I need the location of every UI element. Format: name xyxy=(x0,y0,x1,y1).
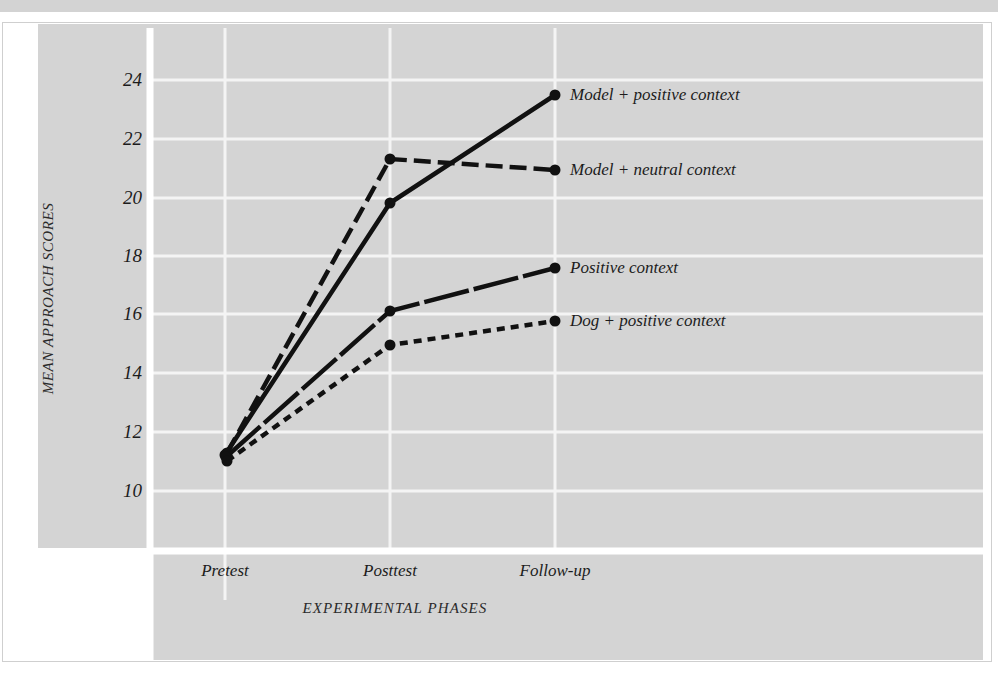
figure-root: MEAN APPROACH SCORES 24 22 20 18 16 14 1… xyxy=(0,0,998,689)
y-tick-label-18: 18 xyxy=(96,245,142,267)
data-point xyxy=(550,263,561,274)
y-tick-label-12: 12 xyxy=(96,421,142,443)
data-point xyxy=(385,154,396,165)
data-point xyxy=(550,316,561,327)
legend-label-dog-positive-context: Dog + positive context xyxy=(570,311,725,331)
legend-label-model-neutral-context: Model + neutral context xyxy=(570,160,736,180)
legend-label-model-positive-context: Model + positive context xyxy=(570,85,740,105)
legend-label-positive-context: Positive context xyxy=(570,258,678,278)
y-axis-title: MEAN APPROACH SCORES xyxy=(40,189,57,409)
x-axis-title: EXPERIMENTAL PHASES xyxy=(215,600,575,617)
y-tick-label-24: 24 xyxy=(96,69,142,91)
y-tick-label-22: 22 xyxy=(96,128,142,150)
y-tick-label-16: 16 xyxy=(96,303,142,325)
data-point xyxy=(550,90,561,101)
data-point xyxy=(222,456,233,467)
chart-plot-area xyxy=(0,0,998,689)
data-point xyxy=(385,340,396,351)
y-tick-label-14: 14 xyxy=(96,362,142,384)
data-point xyxy=(385,198,396,209)
y-tick-label-10: 10 xyxy=(96,480,142,502)
data-point xyxy=(385,306,396,317)
data-point xyxy=(550,165,561,176)
x-tick-label-followup: Follow-up xyxy=(455,561,655,581)
y-tick-label-20: 20 xyxy=(96,187,142,209)
